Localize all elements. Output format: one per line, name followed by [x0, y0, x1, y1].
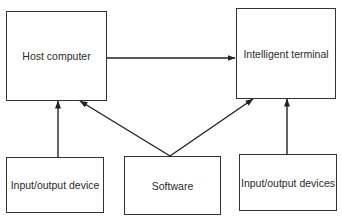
- host-computer-label: Host computer: [22, 50, 90, 62]
- intelligent-terminal-box: Intelligent terminal: [236, 8, 336, 99]
- intelligent-terminal-label: Intelligent terminal: [243, 48, 328, 60]
- software-box: Software: [124, 156, 221, 215]
- arrow-software-to-terminal: [170, 99, 253, 156]
- io-devices-box: Input/output devices: [239, 154, 337, 211]
- arrow-software-to-host: [80, 101, 170, 156]
- io-devices-label: Input/output devices: [241, 177, 335, 189]
- software-label: Software: [152, 180, 193, 192]
- io-device-box: Input/output device: [6, 157, 104, 213]
- host-computer-box: Host computer: [6, 11, 107, 101]
- io-device-label: Input/output device: [11, 179, 100, 191]
